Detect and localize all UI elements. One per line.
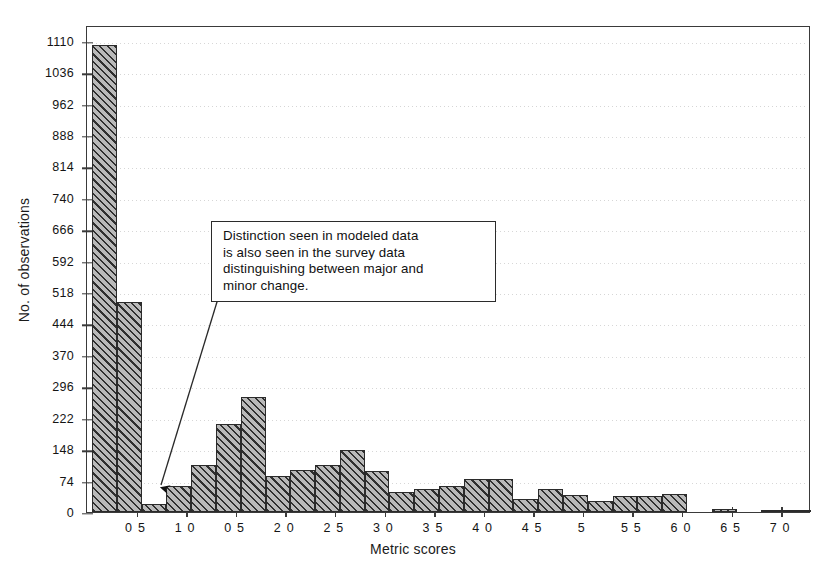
x-tick-label: 4 5 bbox=[505, 521, 559, 535]
histogram-bar bbox=[117, 302, 142, 512]
histogram-bar bbox=[489, 479, 514, 512]
histogram-bar bbox=[92, 45, 117, 512]
histogram-bar bbox=[191, 465, 216, 512]
y-tick-label: 74 bbox=[14, 475, 74, 489]
histogram-bar bbox=[613, 496, 638, 512]
gridline bbox=[88, 420, 808, 421]
annotation-line-3: distinguishing between major and bbox=[223, 261, 486, 278]
histogram-bar bbox=[563, 495, 588, 512]
y-tick-mark bbox=[82, 42, 93, 43]
gridline bbox=[88, 325, 808, 326]
histogram-figure: No. of observations 07414822229637044451… bbox=[0, 0, 826, 580]
histogram-bar bbox=[588, 501, 613, 512]
gridline bbox=[88, 200, 808, 201]
y-tick-label: 444 bbox=[14, 317, 74, 331]
histogram-bar bbox=[786, 510, 811, 512]
x-tick-label: 3 0 bbox=[357, 521, 411, 535]
histogram-bar bbox=[662, 494, 687, 512]
gridline bbox=[88, 357, 808, 358]
annotation-line-1: Distinction seen in modeled data bbox=[223, 228, 486, 245]
histogram-bar bbox=[513, 499, 538, 512]
histogram-bar bbox=[142, 504, 167, 512]
y-tick-label: 1110 bbox=[14, 35, 74, 49]
x-tick-label: 2 5 bbox=[307, 521, 361, 535]
histogram-bar bbox=[637, 496, 662, 512]
y-tick-label: 592 bbox=[14, 255, 74, 269]
x-axis-title: Metric scores bbox=[0, 541, 826, 557]
x-tick-label: 0 5 bbox=[208, 521, 262, 535]
gridline bbox=[88, 388, 808, 389]
x-tick-label: 6 0 bbox=[654, 521, 708, 535]
y-tick-label: 814 bbox=[14, 160, 74, 174]
histogram-bar bbox=[365, 471, 390, 512]
x-tick-label: 2 0 bbox=[257, 521, 311, 535]
histogram-bar bbox=[712, 509, 737, 512]
gridline bbox=[88, 168, 808, 169]
histogram-bar bbox=[439, 486, 464, 512]
y-tick-label: 1036 bbox=[14, 66, 74, 80]
x-tick-label: 5 5 bbox=[604, 521, 658, 535]
histogram-bar bbox=[761, 510, 786, 512]
histogram-bar bbox=[266, 476, 291, 512]
y-tick-label: 962 bbox=[14, 98, 74, 112]
gridline bbox=[88, 451, 808, 452]
y-tick-mark bbox=[82, 513, 93, 514]
y-tick-label: 740 bbox=[14, 192, 74, 206]
gridline bbox=[88, 137, 808, 138]
annotation-box: Distinction seen in modeled data is also… bbox=[211, 221, 496, 302]
y-tick-label: 148 bbox=[14, 443, 74, 457]
gridline bbox=[88, 74, 808, 75]
x-tick-label: 4 0 bbox=[456, 521, 510, 535]
annotation-line-4: minor change. bbox=[223, 278, 486, 295]
y-tick-label: 518 bbox=[14, 286, 74, 300]
y-tick-label: 296 bbox=[14, 380, 74, 394]
histogram-bar bbox=[340, 450, 365, 512]
x-tick-label: 1 0 bbox=[158, 521, 212, 535]
y-tick-label: 888 bbox=[14, 129, 74, 143]
histogram-bar bbox=[414, 489, 439, 512]
y-tick-label: 370 bbox=[14, 349, 74, 363]
gridline bbox=[88, 106, 808, 107]
histogram-bar bbox=[315, 465, 340, 512]
x-tick-label: 3 5 bbox=[406, 521, 460, 535]
histogram-bar bbox=[389, 492, 414, 512]
histogram-bar bbox=[290, 470, 315, 512]
gridline bbox=[88, 43, 808, 44]
x-tick-label: 6 5 bbox=[704, 521, 758, 535]
annotation-line-2: is also seen in the survey data bbox=[223, 245, 486, 262]
x-tick-label: 0 5 bbox=[109, 521, 163, 535]
y-tick-label: 666 bbox=[14, 223, 74, 237]
y-tick-label: 222 bbox=[14, 412, 74, 426]
x-tick-mark bbox=[781, 507, 782, 517]
histogram-bar bbox=[166, 486, 191, 512]
histogram-bar bbox=[216, 424, 241, 512]
histogram-bar bbox=[538, 489, 563, 512]
y-tick-label: 0 bbox=[14, 506, 74, 520]
histogram-bar bbox=[464, 479, 489, 512]
x-tick-label: 7 0 bbox=[753, 521, 807, 535]
histogram-bar bbox=[241, 397, 266, 512]
x-tick-label: 5 bbox=[555, 521, 609, 535]
